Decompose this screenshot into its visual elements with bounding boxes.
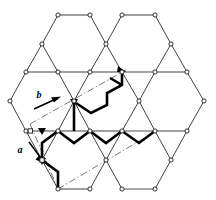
lattice-diagram-canvas: b a [0, 0, 216, 200]
origin-vertex-marker [28, 129, 32, 133]
vector-b-label: b [37, 89, 42, 100]
vector-a-label: a [18, 144, 23, 155]
lattice-figure: b a [0, 0, 216, 200]
cell-corner-marker [40, 158, 44, 162]
